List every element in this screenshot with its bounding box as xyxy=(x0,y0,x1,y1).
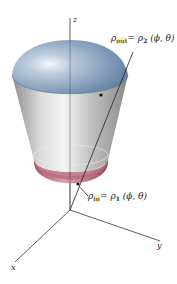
x-axis xyxy=(15,210,70,262)
subscript-1: 1 xyxy=(116,195,120,202)
z-axis-label: z xyxy=(73,15,77,24)
inner-pointer xyxy=(79,186,88,196)
subscript-in: in xyxy=(93,195,100,202)
outer-surface-label: ρout= ρ2 (ϕ, θ) xyxy=(111,33,175,44)
function-args: (ϕ, θ) xyxy=(150,33,174,43)
x-axis-label: x xyxy=(11,263,16,272)
y-axis-label: y xyxy=(157,241,162,250)
inner-surface-label: ρin= ρ1 (ϕ, θ) xyxy=(88,191,147,202)
y-axis xyxy=(70,210,160,241)
point-outer xyxy=(99,93,102,96)
subscript-out: out xyxy=(116,37,127,44)
subscript-2: 2 xyxy=(143,37,147,44)
function-args: (ϕ, θ) xyxy=(123,191,147,201)
point-inner xyxy=(76,182,79,185)
equals-sign: = xyxy=(100,191,108,201)
equals-sign: = xyxy=(127,33,135,43)
